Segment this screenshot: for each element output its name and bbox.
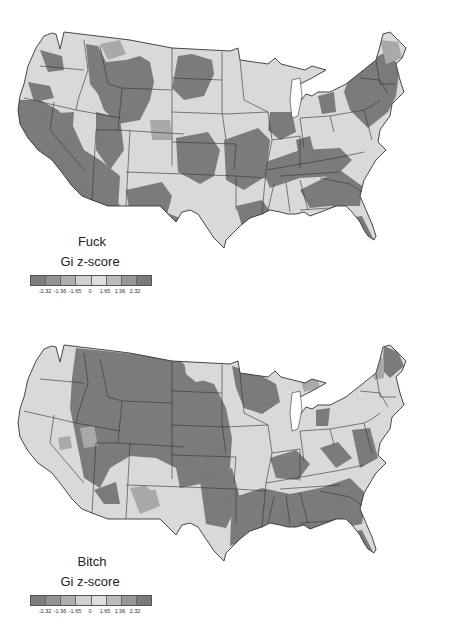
tick-label: -2.32 [39,288,52,294]
swatch [92,276,107,285]
tick-label: -1.65 [69,288,82,294]
swatch [122,596,137,605]
color-scale [30,595,152,606]
swatch [107,596,122,605]
swatch [76,276,91,285]
color-scale [30,275,152,286]
swatch [137,596,151,605]
tick-label: 1.65 [100,288,111,294]
tick-label: 2.32 [130,288,141,294]
legend-bottom: Bitch Gi z-score -2.32 -1.96 -1.65 0 1.6… [28,554,152,617]
swatch [61,276,76,285]
tick-label: 1.96 [115,288,126,294]
tick-label: -2.32 [39,608,52,614]
tick-labels: -2.32 -1.96 -1.65 0 1.65 1.96 2.32 [28,608,152,617]
tick-label: -1.96 [54,608,67,614]
word-label: Fuck [32,234,152,249]
swatch [31,276,46,285]
word-label: Bitch [32,554,152,569]
tick-label: -1.96 [54,288,67,294]
tick-labels: -2.32 -1.96 -1.65 0 1.65 1.96 2.32 [28,288,152,297]
swatch [46,596,61,605]
map-panel-bitch: Bitch Gi z-score -2.32 -1.96 -1.65 0 1.6… [0,318,457,629]
legend-title: Gi z-score [28,254,152,269]
swatch [46,276,61,285]
tick-label: 0 [88,608,91,614]
swatch [31,596,46,605]
legend-title: Gi z-score [28,574,152,589]
swatch [137,276,151,285]
map-panel-fuck: Fuck Gi z-score -2.32 -1.96 -1.65 0 1.65… [0,0,457,310]
swatch [76,596,91,605]
tick-label: 1.65 [100,608,111,614]
swatch [92,596,107,605]
tick-label: 0 [88,288,91,294]
swatch [61,596,76,605]
tick-label: -1.65 [69,608,82,614]
swatch [122,276,137,285]
tick-label: 2.32 [130,608,141,614]
swatch [107,276,122,285]
legend-top: Fuck Gi z-score -2.32 -1.96 -1.65 0 1.65… [28,234,152,297]
tick-label: 1.96 [115,608,126,614]
